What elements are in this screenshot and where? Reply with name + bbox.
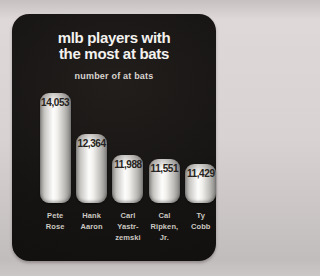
bar-value-label: 11,429 — [181, 168, 219, 179]
x-axis-label-cal-ripken-jr: Cal Ripken, Jr. — [146, 210, 182, 243]
chart-card: mlb players with the most at bats number… — [12, 14, 216, 261]
bar-value-label: 12,364 — [72, 138, 111, 149]
bar-column-hank-aaron: 12,364 — [73, 134, 109, 203]
x-axis-label-hank-aaron: Hank Aaron — [73, 210, 109, 243]
bar-chart: 14,053 12,364 11,988 11,551 11,429 — [37, 14, 219, 203]
x-axis-label-ty-cobb: Ty Cobb — [183, 210, 219, 243]
bar-column-pete-rose: 14,053 — [37, 93, 73, 203]
bar-column-ty-cobb: 11,429 — [183, 164, 219, 203]
bar-pete-rose: 14,053 — [40, 93, 71, 203]
x-axis-labels: Pete Rose Hank Aaron Carl Yastr- zemski … — [37, 210, 219, 243]
bar-value-label: 11,551 — [145, 163, 184, 174]
bar-ty-cobb: 11,429 — [185, 164, 216, 203]
x-axis-label-pete-rose: Pete Rose — [37, 210, 73, 243]
bar-carl-yastrzemski: 11,988 — [112, 155, 143, 203]
bar-hank-aaron: 12,364 — [76, 134, 107, 203]
bar-column-cal-ripken-jr: 11,551 — [146, 159, 182, 203]
x-axis-label-carl-yastrzemski: Carl Yastr- zemski — [110, 210, 146, 243]
bar-cal-ripken-jr: 11,551 — [149, 159, 180, 203]
bar-column-carl-yastrzemski: 11,988 — [110, 155, 146, 203]
bar-value-label: 14,053 — [36, 97, 75, 108]
bar-value-label: 11,988 — [108, 159, 147, 170]
